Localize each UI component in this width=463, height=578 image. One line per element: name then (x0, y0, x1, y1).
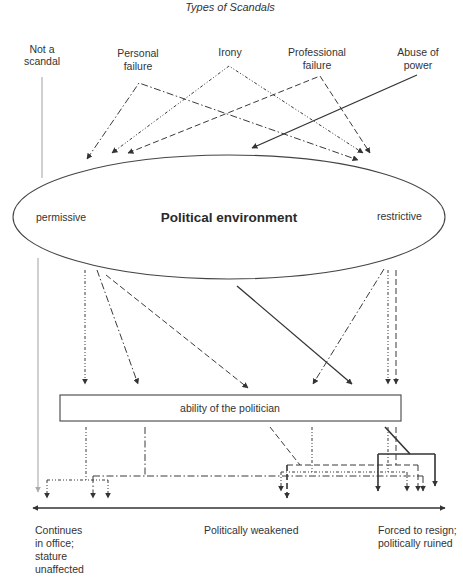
outcome-left: Continues in office; stature unaffected (35, 524, 84, 575)
label-line: failure (124, 60, 153, 72)
professional-failure-arrows (128, 76, 370, 153)
outcome-left-line: in office; (35, 537, 74, 549)
label-line: power (404, 59, 433, 71)
abuse-of-power-outcome-stem (385, 427, 410, 454)
political-environment: permissive Political environment restric… (13, 155, 445, 279)
scandal-type-not-a-scandal: Not a scandal (24, 43, 60, 67)
ability-box: ability of the politician (60, 395, 401, 421)
environment-to-ability-arrows (38, 258, 396, 492)
label-line: Not a (29, 43, 54, 55)
personal-failure-arrows (87, 83, 358, 160)
scandal-type-abuse-of-power: Abuse of power (397, 46, 439, 71)
permissive-label: permissive (36, 211, 86, 223)
outcome-left-line: unaffected (35, 563, 84, 575)
scandal-type-personal-failure: Personal failure (117, 47, 158, 72)
personal-failure-restrictive-arrow (313, 269, 384, 384)
scandal-diagram: Types of Scandals Not a scandal Personal… (0, 0, 463, 578)
abuse-of-power-arrow (252, 75, 417, 148)
ability-to-outcome-arrows (47, 427, 435, 498)
label-line: Abuse of (397, 46, 439, 58)
outcome-middle: Politically weakened (204, 524, 299, 536)
label-line: Professional (288, 46, 346, 58)
diagram-title: Types of Scandals (185, 1, 275, 13)
outcome-right: Forced to resign; politically ruined (378, 524, 457, 549)
label-line: Irony (218, 46, 242, 58)
restrictive-label: restrictive (377, 210, 422, 222)
outcome-left-line: Continues (35, 524, 82, 536)
personal-failure-permissive-arrow (97, 270, 138, 384)
scandal-type-professional-failure: Professional failure (288, 46, 346, 71)
scandal-type-irony: Irony (218, 46, 242, 58)
abuse-of-power-arrow-lower (237, 286, 352, 384)
label-line: failure (303, 59, 332, 71)
ability-label: ability of the politician (180, 402, 280, 414)
outcome-right-line: politically ruined (378, 537, 453, 549)
professional-failure-outcome-stem (270, 427, 300, 465)
label-line: Personal (117, 47, 158, 59)
environment-label: Political environment (161, 210, 298, 225)
outcome-left-line: stature (35, 550, 67, 562)
outcome-right-line: Forced to resign; (378, 524, 457, 536)
label-line: scandal (24, 55, 60, 67)
professional-failure-permissive-arrow (106, 275, 248, 388)
